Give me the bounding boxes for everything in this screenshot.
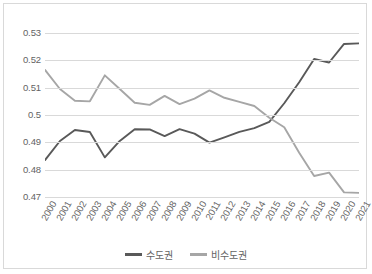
y-axis-tick-label: 0.49: [23, 136, 41, 147]
y-axis-tick-label: 0.5: [28, 109, 41, 120]
legend-swatch-icon: [190, 253, 207, 256]
gridline: [45, 33, 359, 34]
gridline: [45, 170, 359, 171]
x-axis-labels: 2000200120022003200420052006200720082009…: [45, 199, 359, 247]
y-axis-tick-label: 0.51: [23, 82, 41, 93]
gridline: [45, 197, 359, 198]
y-axis-tick-label: 0.48: [23, 164, 41, 175]
legend-swatch-icon: [125, 253, 142, 256]
gridline: [45, 142, 359, 143]
legend-item[interactable]: 수도권: [125, 247, 173, 262]
gridline: [45, 115, 359, 116]
x-axis-tick-label: 2000: [39, 199, 59, 222]
plot-area: [45, 33, 359, 197]
chart-frame: 0.470.480.490.50.510.520.53 200020012002…: [3, 3, 367, 269]
legend-label: 비수도권: [211, 247, 247, 262]
legend-item[interactable]: 비수도권: [190, 247, 247, 262]
gridline: [45, 88, 359, 89]
y-axis-tick-label: 0.47: [23, 191, 41, 202]
y-axis-tick-label: 0.52: [23, 54, 41, 65]
chart-legend: 수도권비수도권: [4, 247, 368, 262]
y-axis-labels: 0.470.480.490.50.510.520.53: [4, 33, 41, 197]
gridline: [45, 60, 359, 61]
legend-label: 수도권: [146, 247, 173, 262]
y-axis-tick-label: 0.53: [23, 27, 41, 38]
